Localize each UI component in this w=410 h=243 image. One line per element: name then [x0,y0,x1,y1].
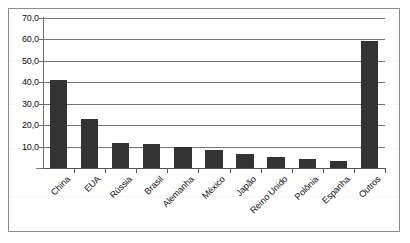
x-axis-category-label: Polônia [293,174,321,202]
x-axis-tick-mark [230,169,231,173]
bar [50,80,67,168]
chart-figure: -10,020,030,040,050,060,070,0 ChinaEUARú… [0,0,410,243]
x-axis-tick-mark [323,169,324,173]
y-axis-tick-label: 10,0 [22,142,39,152]
bar [174,147,191,168]
x-axis-tick-mark [167,169,168,173]
bar [267,157,284,168]
y-axis-tick-label: 60,0 [22,34,39,44]
y-axis-tick-mark [39,168,43,169]
y-axis-tick-label: 70,0 [22,13,39,23]
y-axis-tick-mark [39,82,43,83]
bar-slot [105,18,136,168]
x-axis-category-label: Alemanha [161,174,196,209]
bar [236,154,253,168]
y-axis-tick-mark [39,39,43,40]
x-axis-tick-mark [105,169,106,173]
bar-slot [354,18,385,168]
bar-slot [198,18,229,168]
bar [299,159,316,168]
scan-artifact [9,60,399,61]
y-axis-tick-label: 20,0 [22,120,39,130]
y-axis-tick-mark [39,125,43,126]
bar [330,161,347,169]
bar-slot [261,18,292,168]
bar-slot [323,18,354,168]
x-axis-category-label: Brasil [142,174,165,197]
x-axis-tick-mark [136,169,137,173]
y-axis-tick-mark [39,18,43,19]
bar-slot [230,18,261,168]
x-axis-tick-mark [74,169,75,173]
bar-slot [292,18,323,168]
x-axis-tick-mark [261,169,262,173]
bar [205,150,222,168]
x-axis-category-labels: ChinaEUARússiaBrasilAlemanhaMéxicoJapãoR… [43,174,385,226]
bar-slot [136,18,167,168]
x-axis-tick-mark [354,169,355,173]
bar-slot [74,18,105,168]
bar-slot [43,18,74,168]
x-axis-category-label: Japão [234,174,258,198]
scan-artifact [9,148,399,149]
x-axis-category-label: Espanha [320,174,352,206]
scan-artifact [9,104,399,105]
x-axis-tick-mark [198,169,199,173]
y-axis-tick-label: 40,0 [22,77,39,87]
bar-slot [167,18,198,168]
x-axis-category-label: China [48,174,71,197]
y-axis-tick-labels: -10,020,030,040,050,060,070,0 [0,0,39,243]
bar-series [43,18,385,168]
scan-artifact [9,196,399,197]
x-axis-tick-mark [292,169,293,173]
y-axis-tick-mark [39,61,43,62]
x-axis-tick-mark [385,169,386,173]
bar [81,119,98,168]
x-axis-line [43,168,386,169]
x-axis-category-label: EUA [83,174,103,194]
